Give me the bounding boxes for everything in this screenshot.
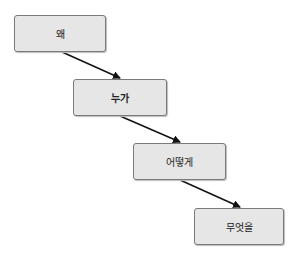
node-label: 어떻게 bbox=[166, 154, 193, 169]
node-label: 무엇을 bbox=[226, 219, 253, 234]
node-who: 누가 bbox=[73, 79, 167, 116]
node-label: 누가 bbox=[111, 90, 129, 105]
arrow-n3-n4 bbox=[180, 180, 240, 207]
node-how: 어떻게 bbox=[133, 143, 226, 180]
arrow-n1-n2 bbox=[62, 52, 120, 78]
node-label: 왜 bbox=[56, 26, 65, 41]
arrow-n2-n3 bbox=[120, 116, 180, 142]
node-what: 무엇을 bbox=[194, 208, 284, 245]
node-why: 왜 bbox=[14, 15, 106, 52]
